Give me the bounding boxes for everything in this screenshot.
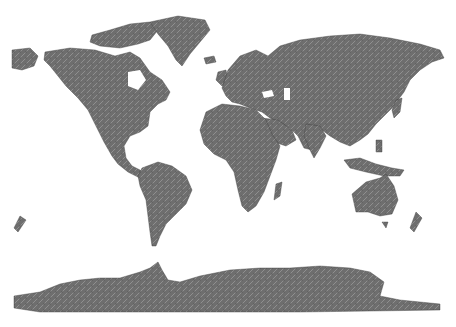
region-philippines [376, 140, 382, 152]
caspian-sea [284, 88, 290, 100]
world-relief-map [0, 0, 456, 327]
